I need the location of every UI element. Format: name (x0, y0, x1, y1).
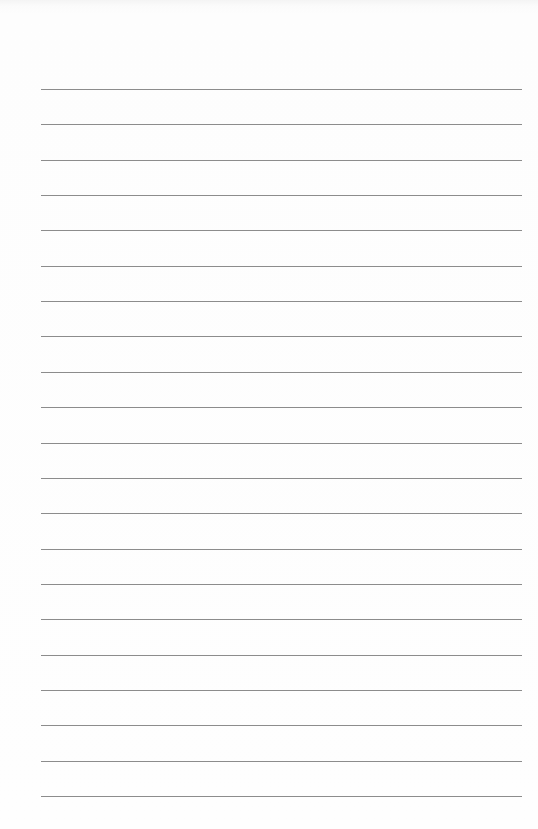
ruled-line (41, 584, 522, 585)
ruled-line (41, 761, 522, 762)
ruled-line (41, 230, 522, 231)
ruled-line (41, 549, 522, 550)
ruled-line (41, 796, 522, 797)
ruled-line (41, 372, 522, 373)
ruled-line (41, 655, 522, 656)
ruled-line (41, 160, 522, 161)
ruled-line (41, 266, 522, 267)
ruled-line (41, 725, 522, 726)
ruled-line (41, 301, 522, 302)
ruled-line (41, 195, 522, 196)
ruled-line (41, 336, 522, 337)
ruled-line (41, 513, 522, 514)
ruled-line (41, 690, 522, 691)
ruled-line (41, 619, 522, 620)
ruled-line (41, 407, 522, 408)
ruled-line (41, 443, 522, 444)
ruled-line (41, 478, 522, 479)
ruled-line (41, 124, 522, 125)
ruled-page (0, 0, 538, 829)
ruled-line (41, 89, 522, 90)
